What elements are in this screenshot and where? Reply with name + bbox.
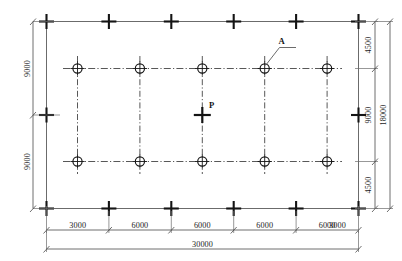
bottom-overall-dim-label: 30000 <box>192 240 213 249</box>
right-dim-segment-2: 9000 <box>364 107 373 124</box>
bottom-dim-segment-2: 6000 <box>132 221 149 230</box>
plan-canvas: A P 9000 9000 4500 9000 4500 <box>0 0 402 261</box>
annotation-p-label: P <box>209 100 214 110</box>
bottom-dim-segment-3: 6000 <box>194 221 211 230</box>
annotation-a: A <box>266 36 296 65</box>
right-outer-dimension: 18000 <box>375 19 393 213</box>
column-circle-top-row-1 <box>70 61 84 75</box>
bottom-dim-segment-4: 6000 <box>256 221 273 230</box>
bottom-dimension-chain: 3000 6000 6000 6000 6000 3000 <box>44 206 362 234</box>
column-circle-bottom-row-5 <box>320 154 334 168</box>
left-dim-segment-2: 9000 <box>23 153 32 170</box>
cross-marker-top-5 <box>289 14 304 29</box>
structural-plan-drawing: A P 9000 9000 4500 9000 4500 <box>0 0 402 261</box>
bottom-overall-dimension: 30000 <box>44 230 362 253</box>
column-circle-bottom-row-4 <box>258 154 272 168</box>
right-dim-segment-3: 4500 <box>364 177 373 194</box>
column-circle-top-row-4 <box>258 61 272 75</box>
left-dimension-chain: 9000 9000 <box>23 19 61 213</box>
column-circle-bottom-row-3 <box>195 154 209 168</box>
cross-marker-top-2 <box>101 14 116 29</box>
cross-marker-top-3 <box>164 14 179 29</box>
left-dim-segment-1: 9000 <box>23 60 32 77</box>
bottom-dim-segment-6: 3000 <box>329 221 346 230</box>
bottom-dim-segment-1: 3000 <box>69 221 86 230</box>
cross-marker-top-4 <box>226 14 241 29</box>
column-circle-bottom-row-2 <box>133 154 147 168</box>
annotation-a-label: A <box>278 36 285 46</box>
right-dim-segment-1: 4500 <box>364 37 373 54</box>
column-circle-bottom-row-1 <box>70 154 84 168</box>
column-circle-top-row-2 <box>133 61 147 75</box>
column-circle-top-row-3 <box>195 61 209 75</box>
load-point-marker: P <box>194 100 214 124</box>
column-circle-top-row-5 <box>320 61 334 75</box>
right-overall-dim-label: 18000 <box>379 105 388 126</box>
